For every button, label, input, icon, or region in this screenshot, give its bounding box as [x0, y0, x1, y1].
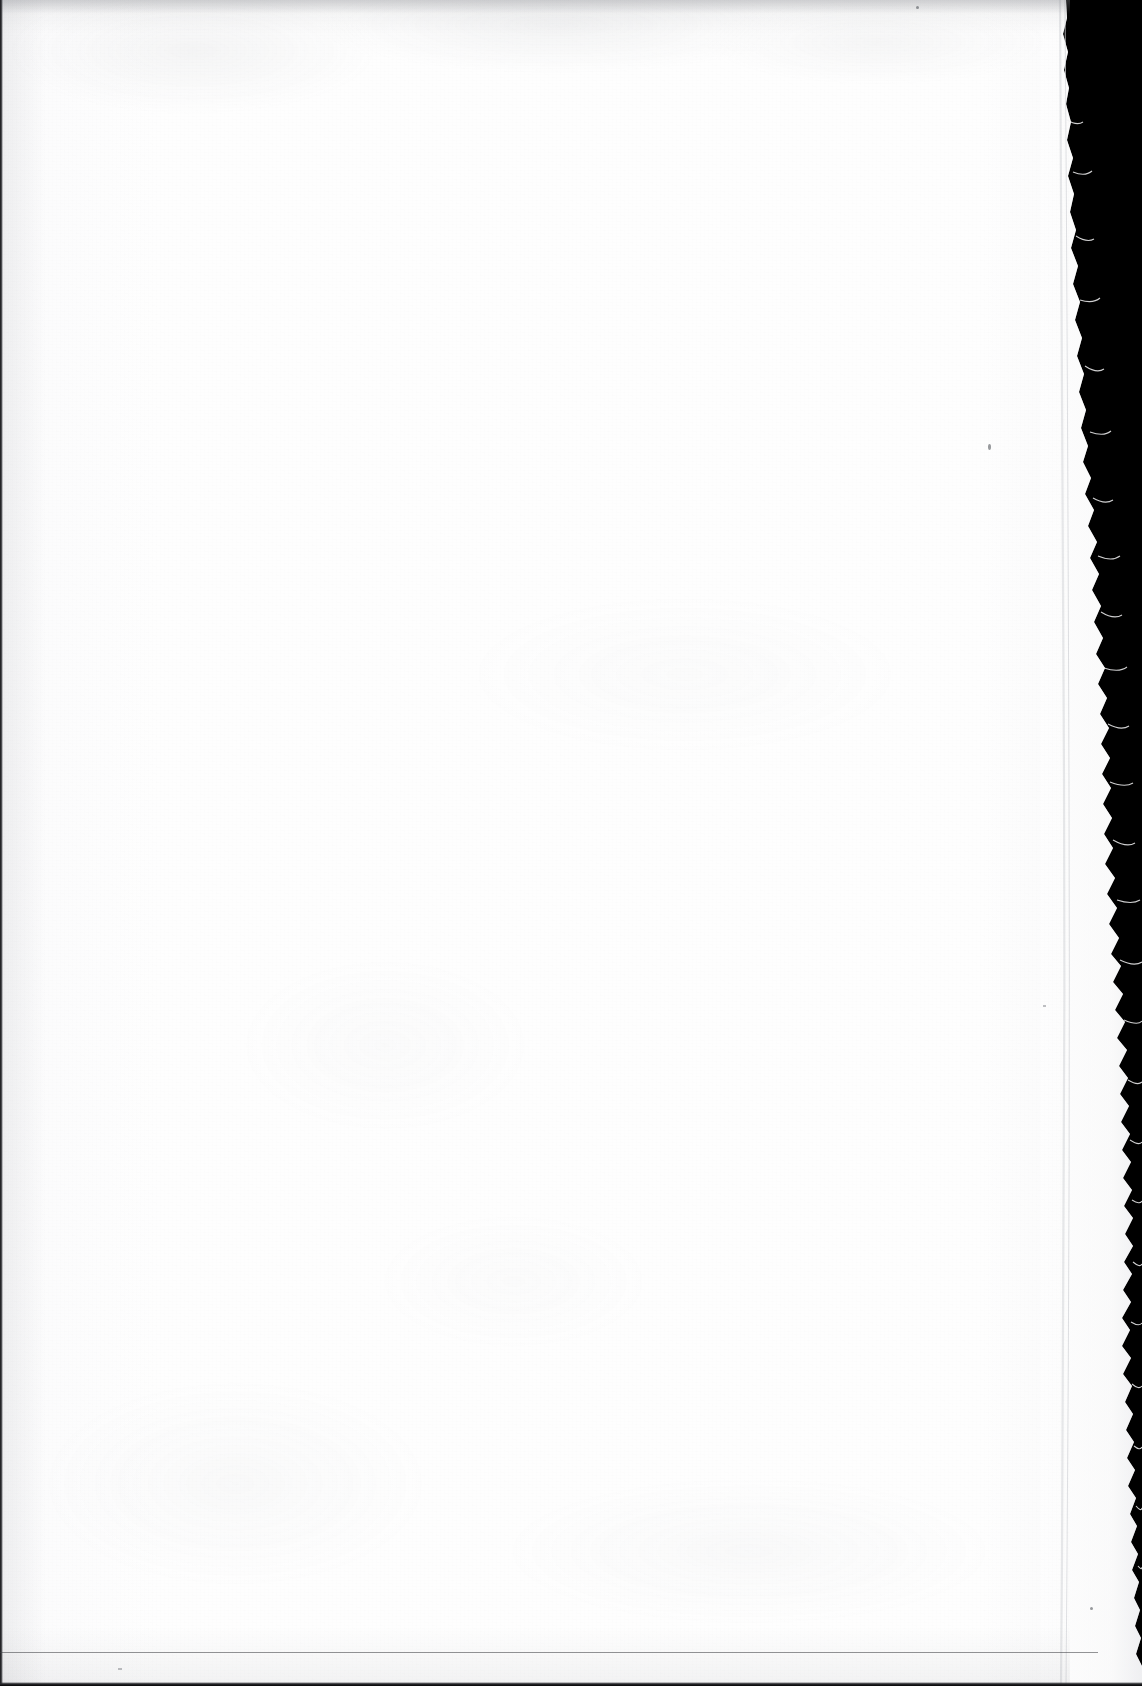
left-edge-border [0, 0, 3, 1686]
scanned-page-canvas [0, 0, 1142, 1686]
paper-body-path [0, 0, 1142, 1686]
paper-leaf [0, 0, 1142, 1686]
torn-edge-shading-path [1040, 0, 1142, 1686]
paper-silhouette-svg [0, 0, 1142, 1686]
bottom-edge-border [0, 1682, 1142, 1686]
